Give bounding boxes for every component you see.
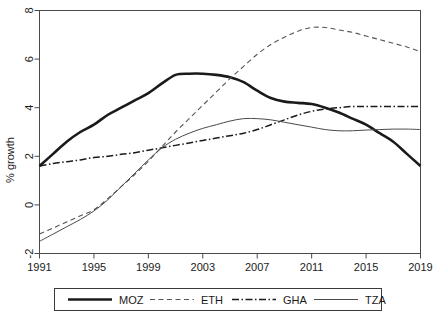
legend-label-eth: ETH — [201, 294, 223, 306]
plot-area-border — [40, 11, 421, 254]
y-tick-label: -2 — [23, 249, 35, 259]
chart-svg: -202468 19911995199920032007201120152019… — [0, 0, 434, 316]
chart-legend: MOZETHGHATZA — [55, 289, 387, 311]
series-line-tza — [40, 118, 421, 241]
x-tick-label: 2019 — [408, 261, 432, 273]
series-line-gha — [40, 106, 421, 166]
y-axis-title: % growth — [4, 137, 16, 183]
x-tick-label: 1999 — [136, 261, 160, 273]
series-line-moz — [40, 74, 421, 166]
growth-line-chart: -202468 19911995199920032007201120152019… — [0, 0, 434, 316]
legend-label-tza: TZA — [365, 294, 386, 306]
x-tick-label: 1991 — [27, 261, 51, 273]
x-tick-label: 1995 — [82, 261, 106, 273]
x-tick-label: 2007 — [245, 261, 269, 273]
y-axis: -202468 — [23, 7, 39, 258]
data-series-group — [40, 27, 421, 241]
x-axis: 19911995199920032007201120152019 — [27, 254, 432, 273]
y-tick-label: 8 — [23, 7, 35, 13]
legend-label-moz: MOZ — [119, 294, 144, 306]
x-tick-label: 2015 — [354, 261, 378, 273]
y-tick-label: 2 — [23, 153, 35, 159]
x-tick-label: 2003 — [191, 261, 215, 273]
y-tick-label: 6 — [23, 56, 35, 62]
x-tick-label: 2011 — [300, 261, 324, 273]
y-tick-label: 0 — [23, 202, 35, 208]
y-tick-label: 4 — [23, 105, 35, 111]
legend-label-gha: GHA — [283, 294, 308, 306]
